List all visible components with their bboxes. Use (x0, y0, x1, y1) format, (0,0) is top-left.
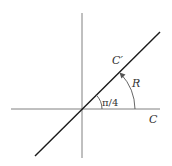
arrowhead-icon (120, 73, 126, 79)
line-c-prime (35, 32, 160, 156)
label-c-prime: C′ (112, 54, 123, 67)
label-angle: π/4 (102, 97, 118, 108)
contour-rotation-diagram: C′ R π/4 C (0, 0, 172, 166)
label-r: R (131, 77, 140, 90)
label-c: C (149, 113, 158, 126)
